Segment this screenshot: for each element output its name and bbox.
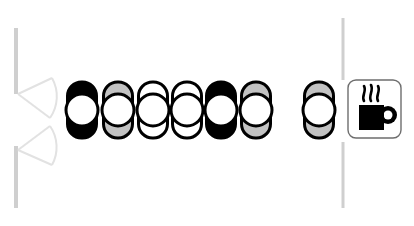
seat-5[interactable] xyxy=(205,82,237,138)
seat-7-head xyxy=(303,94,335,126)
floor-plan-diagram xyxy=(0,0,414,226)
seat-3-head xyxy=(137,94,169,126)
seat-4-head xyxy=(171,94,203,126)
seat-5-head xyxy=(205,94,237,126)
seat-2-head xyxy=(102,94,134,126)
seat-2[interactable] xyxy=(102,82,134,138)
floor-plan-canvas xyxy=(0,0,414,226)
seat-1[interactable] xyxy=(66,82,98,138)
coffee-cup-handle-hole xyxy=(384,111,393,120)
coffee-station-group xyxy=(348,80,401,138)
coffee-cup-body xyxy=(359,105,384,130)
seat-4[interactable] xyxy=(171,82,203,138)
seat-6-head xyxy=(240,94,272,126)
seat-1-head xyxy=(66,94,98,126)
seat-7[interactable] xyxy=(303,82,335,138)
seat-6[interactable] xyxy=(240,82,272,138)
seat-3[interactable] xyxy=(137,82,169,138)
